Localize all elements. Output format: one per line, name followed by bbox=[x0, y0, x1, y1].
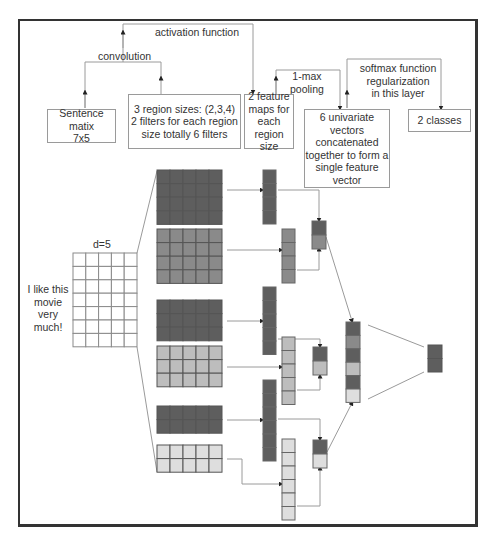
sentence-matrix bbox=[73, 253, 137, 347]
filter-cell bbox=[209, 229, 222, 243]
output-classes-vector bbox=[428, 345, 442, 372]
feature-map-cell bbox=[263, 448, 276, 462]
filter-cell bbox=[183, 211, 196, 225]
filter-cell bbox=[183, 327, 196, 341]
filter-cell bbox=[209, 197, 222, 211]
feature-map-cell bbox=[282, 493, 295, 507]
matrix-cell bbox=[99, 266, 112, 279]
pooled-vector-2 bbox=[313, 347, 327, 375]
filter-cell bbox=[170, 314, 183, 328]
feature-map-cell bbox=[282, 364, 295, 378]
feature-map-cell bbox=[263, 421, 276, 435]
matrix-cell bbox=[124, 253, 137, 266]
filter-cell bbox=[183, 300, 196, 314]
filter-cell bbox=[196, 243, 209, 257]
filter-cell bbox=[157, 184, 170, 198]
filter-cell bbox=[170, 346, 183, 360]
univariate-vectors-box: 6 univariate vectors concatenated togeth… bbox=[304, 109, 390, 188]
filter-4 bbox=[157, 346, 222, 387]
filter-cell bbox=[183, 420, 196, 434]
pooled-cell bbox=[313, 440, 327, 454]
feature-map-2 bbox=[282, 229, 295, 283]
matrix-cell bbox=[99, 253, 112, 266]
feature-map-cell bbox=[263, 287, 276, 301]
feature-map-cell bbox=[282, 378, 295, 392]
filter-cell bbox=[170, 300, 183, 314]
feature-map-cell bbox=[282, 270, 295, 284]
feature-map-cell bbox=[263, 170, 276, 184]
feature-map-cell bbox=[282, 453, 295, 467]
matrix-cell bbox=[124, 280, 137, 293]
filter-cell bbox=[196, 459, 209, 473]
filter-cell bbox=[170, 270, 183, 284]
filter-cell bbox=[157, 256, 170, 270]
filter-5 bbox=[157, 406, 222, 433]
filter-cell bbox=[196, 406, 209, 420]
matrix-cell bbox=[73, 280, 86, 293]
filter-cell bbox=[157, 406, 170, 420]
matrix-cell bbox=[124, 320, 137, 333]
concat-cell bbox=[346, 389, 360, 402]
filter-cell bbox=[183, 184, 196, 198]
filter-cell bbox=[209, 459, 222, 473]
matrix-cell bbox=[111, 280, 124, 293]
filter-cell bbox=[183, 229, 196, 243]
filter-cell bbox=[170, 243, 183, 257]
filter-cell bbox=[170, 197, 183, 211]
filter-cell bbox=[183, 459, 196, 473]
filter-cell bbox=[196, 197, 209, 211]
matrix-cell bbox=[99, 333, 112, 346]
filter-cell bbox=[170, 420, 183, 434]
filter-cell bbox=[157, 243, 170, 257]
filter-cell bbox=[170, 406, 183, 420]
filter-2 bbox=[157, 229, 222, 283]
filter-cell bbox=[157, 270, 170, 284]
feature-map-cell bbox=[282, 351, 295, 365]
feature-map-cell bbox=[282, 229, 295, 243]
filter-cell bbox=[209, 420, 222, 434]
feature-map-6 bbox=[282, 439, 295, 520]
filter-cell bbox=[183, 314, 196, 328]
feature-map-cell bbox=[263, 407, 276, 421]
pooled-cell bbox=[312, 221, 326, 235]
matrix-cell bbox=[73, 333, 86, 346]
filter-cell bbox=[157, 346, 170, 360]
dimension-label: d=5 bbox=[93, 238, 111, 251]
pooled-vector-1 bbox=[312, 221, 326, 249]
matrix-cell bbox=[111, 307, 124, 320]
feature-map-cell bbox=[282, 507, 295, 521]
filter-cell bbox=[170, 327, 183, 341]
filter-cell bbox=[170, 184, 183, 198]
filter-cell bbox=[196, 229, 209, 243]
filter-cell bbox=[157, 327, 170, 341]
feature-map-cell bbox=[263, 341, 276, 355]
filter-cell bbox=[209, 406, 222, 420]
filter-cell bbox=[196, 373, 209, 387]
matrix-cell bbox=[86, 320, 99, 333]
classes-box: 2 classes bbox=[408, 109, 471, 132]
filter-6 bbox=[157, 445, 222, 472]
filter-cell bbox=[170, 360, 183, 374]
filter-cell bbox=[196, 270, 209, 284]
filter-cell bbox=[157, 211, 170, 225]
filter-cell bbox=[196, 327, 209, 341]
matrix-cell bbox=[73, 307, 86, 320]
filter-cell bbox=[170, 170, 183, 184]
filter-cell bbox=[209, 211, 222, 225]
feature-map-cell bbox=[282, 256, 295, 270]
matrix-cell bbox=[86, 280, 99, 293]
feature-map-cell bbox=[263, 314, 276, 328]
filter-cell bbox=[209, 184, 222, 198]
filter-cell bbox=[209, 314, 222, 328]
filter-cell bbox=[157, 314, 170, 328]
feature-map-cell bbox=[263, 434, 276, 448]
filter-cell bbox=[157, 360, 170, 374]
filter-cell bbox=[183, 406, 196, 420]
filter-cell bbox=[183, 270, 196, 284]
concat-cell bbox=[346, 362, 360, 375]
filter-cell bbox=[183, 243, 196, 257]
filter-cell bbox=[183, 360, 196, 374]
matrix-cell bbox=[124, 307, 137, 320]
feature-map-cell bbox=[282, 466, 295, 480]
sentence-matrix-box: Sentence matix 7x5 bbox=[47, 109, 116, 143]
